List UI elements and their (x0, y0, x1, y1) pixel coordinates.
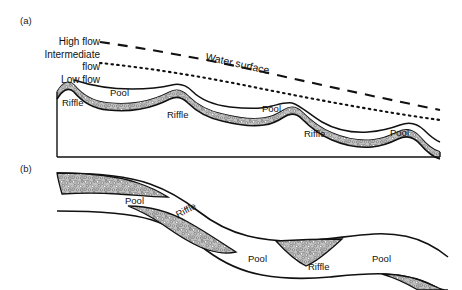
panel-a-pool-label-3: Pool (390, 127, 409, 138)
panel-b-riffle-label-1: Riffle (174, 200, 198, 220)
panel-b-lower-bank (57, 211, 438, 288)
panel-b: (b) Pool Riffle Pool Riffle Pool (20, 163, 448, 290)
panel-b-pool-label-2: Pool (248, 253, 267, 264)
water-surface-label: Water surface (205, 50, 271, 76)
figure-canvas: (a) High flow Intermediate flow Low (0, 0, 462, 290)
panel-a: (a) High flow Intermediate flow Low (20, 15, 440, 159)
intermediate-flow-label-line1: Intermediate (44, 49, 100, 60)
panel-a-pool-label-2: Pool (262, 103, 281, 114)
panel-b-riffle-label-2: Riffle (308, 261, 329, 272)
intermediate-flow-label-line2: flow (82, 61, 101, 72)
panel-a-riffle-label-3: Riffle (304, 128, 325, 139)
panel-b-pool-label-1: Pool (125, 195, 144, 206)
panel-b-pool-label-3: Pool (372, 253, 391, 264)
panel-b-gravel-bar-4 (382, 274, 448, 290)
panel-b-tag: (b) (20, 163, 32, 174)
panel-a-riffle-label-1: Riffle (62, 97, 83, 108)
panel-a-pool-label-1: Pool (110, 87, 129, 98)
low-flow-label: Low flow (61, 74, 101, 85)
high-flow-label: High flow (59, 36, 101, 47)
panel-a-tag: (a) (20, 15, 32, 26)
stream-pool-riffle-figure: (a) High flow Intermediate flow Low (0, 0, 462, 290)
panel-a-riffle-label-2: Riffle (167, 109, 188, 120)
